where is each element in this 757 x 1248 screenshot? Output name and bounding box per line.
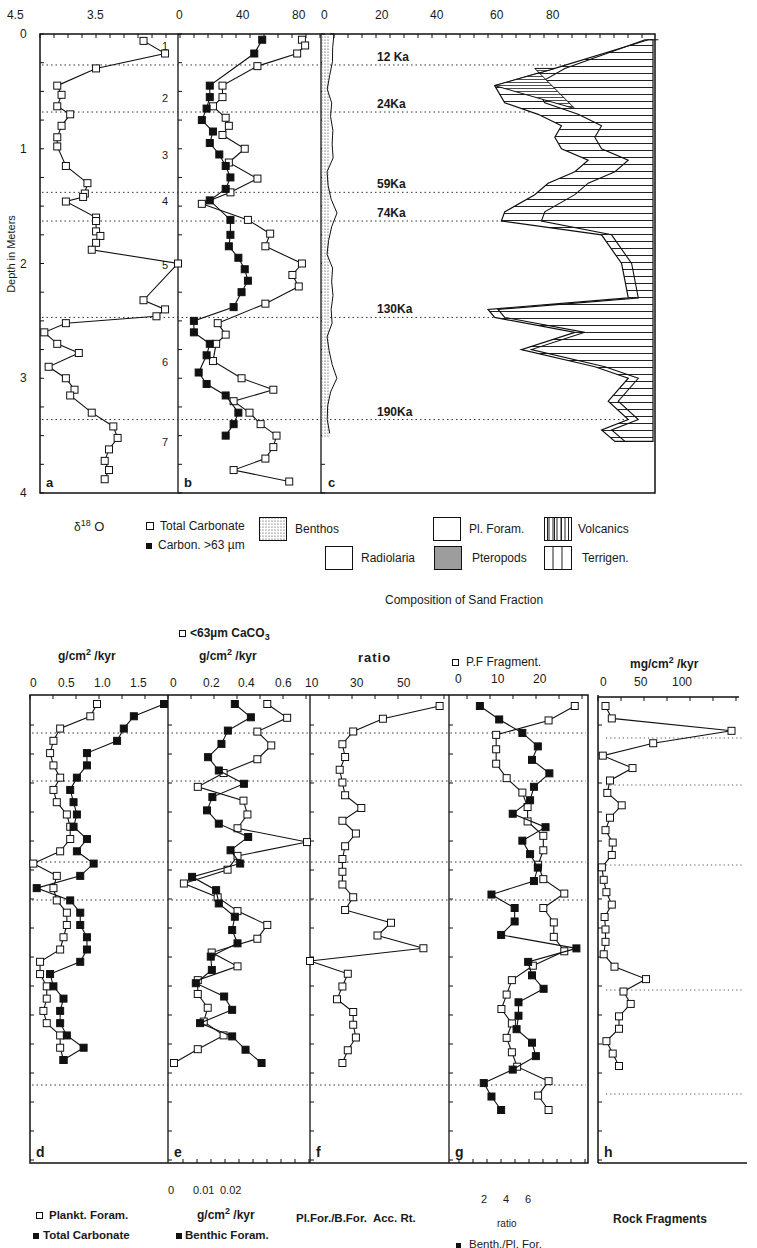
svg-text:0.5: 0.5 [58, 676, 75, 690]
svg-text:6: 6 [525, 1193, 531, 1205]
svg-text:g: g [455, 1144, 464, 1160]
svg-text:24Ka: 24Ka [377, 97, 406, 111]
svg-text:0: 0 [20, 27, 27, 41]
svg-text:0.4: 0.4 [238, 676, 255, 690]
svg-text:0.6: 0.6 [275, 676, 292, 690]
svg-text:a: a [46, 475, 54, 490]
svg-text:4.5: 4.5 [7, 8, 24, 22]
svg-text:80: 80 [546, 8, 560, 22]
svg-text:0.2: 0.2 [203, 676, 220, 690]
svg-text:0: 0 [170, 676, 177, 690]
svg-text:0.01: 0.01 [193, 1184, 214, 1196]
svg-text:c: c [328, 475, 335, 490]
svg-text:0: 0 [321, 8, 328, 22]
svg-text:0: 0 [168, 1184, 174, 1196]
svg-text:b: b [184, 475, 192, 490]
svg-text:12 Ka: 12 Ka [377, 50, 409, 64]
svg-text:30: 30 [350, 676, 364, 690]
svg-text:7: 7 [162, 436, 168, 448]
svg-text:f: f [316, 1144, 321, 1160]
svg-text:6: 6 [162, 356, 168, 368]
svg-text:e: e [174, 1144, 182, 1160]
svg-text:74Ka: 74Ka [377, 206, 406, 220]
svg-text:1: 1 [20, 142, 27, 156]
svg-text:60: 60 [490, 8, 504, 22]
svg-text:1.5: 1.5 [130, 676, 147, 690]
svg-text:10: 10 [305, 676, 319, 690]
svg-text:0: 0 [455, 672, 462, 686]
svg-text:50: 50 [397, 676, 411, 690]
svg-text:1.0: 1.0 [94, 676, 111, 690]
svg-text:40: 40 [430, 8, 444, 22]
figure-canvas: 012344.53.50408002040608012 Ka24Ka59Ka74… [0, 0, 757, 1248]
svg-text:2: 2 [481, 1193, 487, 1205]
svg-text:190Ka: 190Ka [377, 405, 413, 419]
svg-text:4: 4 [20, 486, 27, 500]
svg-text:h: h [604, 1144, 613, 1160]
svg-text:0: 0 [30, 676, 37, 690]
svg-text:0.02: 0.02 [220, 1184, 241, 1196]
svg-text:20: 20 [533, 672, 547, 686]
svg-text:4: 4 [162, 195, 168, 207]
svg-text:0: 0 [176, 8, 183, 22]
svg-text:4: 4 [503, 1193, 509, 1205]
svg-text:2: 2 [20, 257, 27, 271]
svg-text:2: 2 [162, 92, 168, 104]
svg-text:20: 20 [375, 8, 389, 22]
svg-text:0: 0 [600, 675, 607, 689]
svg-text:10: 10 [491, 672, 505, 686]
svg-text:80: 80 [292, 8, 306, 22]
svg-text:130Ka: 130Ka [377, 302, 413, 316]
svg-text:100: 100 [672, 675, 692, 689]
svg-text:d: d [36, 1144, 45, 1160]
svg-text:3: 3 [20, 371, 27, 385]
svg-text:5: 5 [162, 259, 168, 271]
svg-text:59Ka: 59Ka [377, 177, 406, 191]
svg-text:3.5: 3.5 [87, 8, 104, 22]
svg-text:50: 50 [634, 675, 648, 689]
svg-text:3: 3 [162, 149, 168, 161]
svg-text:40: 40 [236, 8, 250, 22]
